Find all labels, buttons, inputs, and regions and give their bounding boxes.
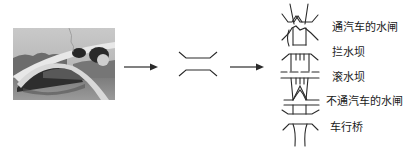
vehicle-bridge-symbol [283, 124, 318, 146]
barrage-dam-symbol [282, 54, 318, 71]
sluice-with-road-symbol [282, 4, 318, 46]
legend-label-vehicle-bridge: 车行桥 [330, 122, 363, 134]
legend-label-sluice-with-road: 通汽车的水闸 [332, 22, 398, 34]
legend-label-overflow-weir: 滚水坝 [332, 72, 365, 84]
legend-label-barrage-dam: 拦水坝 [332, 47, 365, 59]
legend-label-sluice-without-road: 不通汽车的水闸 [326, 96, 403, 108]
sluice-without-road-symbol [282, 86, 319, 114]
